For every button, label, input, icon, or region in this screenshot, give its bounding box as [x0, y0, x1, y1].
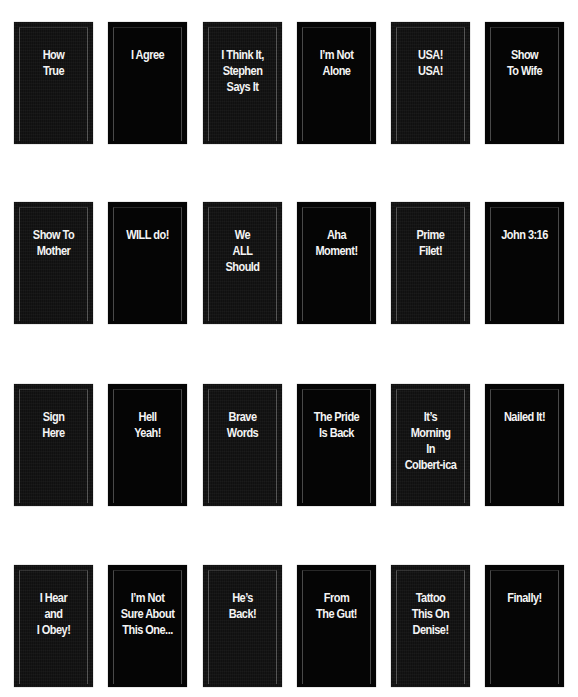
card-finally: Finally!: [485, 565, 564, 687]
card-caption: Aha Moment!: [302, 227, 372, 259]
card-grid: How True I Agree I Think It, Stephen Say…: [0, 0, 578, 697]
card-im-not-alone: I’m Not Alone: [297, 22, 376, 144]
card-caption: I’m Not Sure About This One...: [113, 590, 183, 638]
card-frame: [396, 27, 465, 141]
card-caption: Tattoo This On Denise!: [396, 590, 466, 638]
card-im-not-sure: I’m Not Sure About This One...: [108, 565, 187, 687]
card-nailed-it: Nailed It!: [485, 384, 564, 506]
card-from-the-gut: From The Gut!: [297, 565, 376, 687]
card-tattoo-this-on-denise: Tattoo This On Denise!: [391, 565, 470, 687]
card-will-do: WILL do!: [108, 202, 187, 324]
card-hell-yeah: Hell Yeah!: [108, 384, 187, 506]
card-frame: [113, 27, 182, 141]
card-caption: Prime Filet!: [396, 227, 466, 259]
card-prime-filet: Prime Filet!: [391, 202, 470, 324]
card-caption: I Hear and I Obey!: [19, 590, 89, 638]
card-caption: John 3:16: [490, 227, 560, 243]
card-caption: From The Gut!: [302, 590, 372, 622]
card-caption: Brave Words: [208, 409, 278, 441]
card-frame: [302, 389, 371, 503]
card-caption: I Agree: [113, 47, 183, 63]
card-caption: It’s Morning In Colbert-ica: [396, 409, 466, 473]
card-aha-moment: Aha Moment!: [297, 202, 376, 324]
card-caption: He’s Back!: [208, 590, 278, 622]
card-i-agree: I Agree: [108, 22, 187, 144]
card-frame: [490, 207, 559, 321]
card-sign-here: Sign Here: [14, 384, 93, 506]
card-frame: [396, 207, 465, 321]
card-frame: [208, 570, 277, 684]
card-the-pride-is-back: The Pride Is Back: [297, 384, 376, 506]
card-caption: USA! USA!: [396, 47, 466, 79]
card-frame: [490, 27, 559, 141]
card-caption: WILL do!: [113, 227, 183, 243]
card-we-all-should: We ALL Should: [203, 202, 282, 324]
card-usa-usa: USA! USA!: [391, 22, 470, 144]
card-caption: I’m Not Alone: [302, 47, 372, 79]
card-caption: Nailed It!: [490, 409, 560, 425]
card-caption: The Pride Is Back: [302, 409, 372, 441]
card-caption: Finally!: [490, 590, 560, 606]
card-frame: [302, 207, 371, 321]
card-frame: [19, 389, 88, 503]
card-i-hear-and-i-obey: I Hear and I Obey!: [14, 565, 93, 687]
card-show-to-mother: Show To Mother: [14, 202, 93, 324]
card-frame: [208, 389, 277, 503]
card-frame: [19, 207, 88, 321]
card-caption: How True: [19, 47, 89, 79]
card-i-think-it: I Think It, Stephen Says It: [203, 22, 282, 144]
card-frame: [302, 27, 371, 141]
card-caption: Show To Mother: [19, 227, 89, 259]
card-caption: Sign Here: [19, 409, 89, 441]
card-john-3-16: John 3:16: [485, 202, 564, 324]
card-hes-back: He’s Back!: [203, 565, 282, 687]
card-frame: [113, 207, 182, 321]
card-brave-words: Brave Words: [203, 384, 282, 506]
card-frame: [490, 389, 559, 503]
card-caption: Hell Yeah!: [113, 409, 183, 441]
card-frame: [302, 570, 371, 684]
card-caption: We ALL Should: [208, 227, 278, 275]
card-frame: [19, 27, 88, 141]
card-frame: [490, 570, 559, 684]
card-morning-in-colbert-ica: It’s Morning In Colbert-ica: [391, 384, 470, 506]
card-how-true: How True: [14, 22, 93, 144]
card-caption: Show To Wife: [490, 47, 560, 79]
card-frame: [113, 389, 182, 503]
card-caption: I Think It, Stephen Says It: [208, 47, 278, 95]
card-show-to-wife: Show To Wife: [485, 22, 564, 144]
